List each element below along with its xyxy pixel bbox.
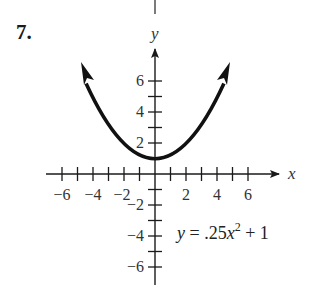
y-tick-label-4: 4 [136,103,144,120]
y-tick-label-neg6: −6 [127,258,144,275]
equation-constant: + 1 [241,223,269,243]
x-tick-label-neg4: −4 [84,186,101,203]
equation-label: y = .25x2 + 1 [175,220,269,243]
x-tick-label-4: 4 [213,186,221,203]
y-tick-label-neg2: −2 [127,196,144,213]
x-tick-label-2: 2 [182,186,190,203]
x-axis-label: x [287,164,296,183]
equation-equals: = .25 [185,223,227,243]
parabola-graph: −6 −4 −2 2 4 6 x 6 4 2 −2 −4 −6 y [0,0,311,286]
y-axis: 6 4 2 −2 −4 −6 y [127,24,162,285]
y-tick-label-6: 6 [136,72,144,89]
x-axis: −6 −4 −2 2 4 6 x [46,164,296,203]
y-tick-label-2: 2 [136,134,144,151]
y-tick-label-neg4: −4 [127,227,144,244]
x-tick-label-6: 6 [244,186,252,203]
x-tick-label-neg6: −6 [53,186,70,203]
y-axis-label: y [149,24,159,43]
left-curve-arrow-icon [81,62,94,85]
right-curve-arrow-icon [217,62,230,85]
